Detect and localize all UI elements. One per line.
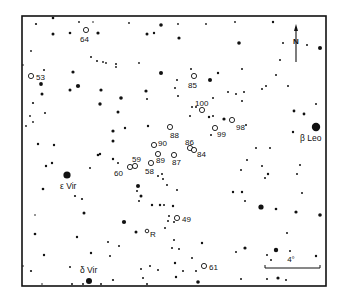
scale-bar-line	[265, 265, 320, 268]
variable-star-label: 99	[217, 130, 226, 139]
variable-star-marker	[199, 107, 204, 112]
field-star	[115, 66, 117, 68]
variable-star-label: 86	[185, 138, 194, 147]
field-star	[222, 117, 225, 120]
field-star	[227, 91, 229, 93]
field-star	[25, 125, 27, 127]
field-star	[90, 252, 92, 254]
field-star	[37, 143, 39, 145]
field-star	[69, 266, 71, 268]
variable-star-marker	[191, 147, 196, 152]
field-star	[44, 112, 46, 114]
field-star	[115, 63, 117, 65]
variable-star-label: 84	[197, 150, 206, 159]
variable-star-label: 85	[188, 81, 197, 90]
field-star	[274, 248, 278, 252]
field-star	[177, 23, 179, 25]
field-star	[157, 269, 159, 271]
field-star	[162, 178, 164, 180]
field-star	[191, 257, 193, 259]
variable-star-label: 89	[156, 156, 165, 165]
field-star	[52, 17, 55, 20]
field-star	[275, 74, 277, 76]
field-star	[30, 50, 32, 52]
star-chart: β Leoε Virδ Vir 645385100989988868490898…	[0, 0, 345, 306]
field-star	[189, 115, 191, 117]
named-star-label: ε Vir	[60, 181, 77, 191]
field-star	[39, 82, 43, 86]
variable-star-label: 59	[132, 155, 141, 164]
field-star	[261, 165, 263, 167]
field-star	[266, 278, 268, 280]
variable-star-label: 87	[172, 158, 181, 167]
field-star	[235, 93, 237, 95]
north-label: N	[293, 37, 299, 46]
field-star	[96, 31, 99, 34]
variable-star-marker	[83, 27, 88, 32]
variable-star-label: 49	[182, 215, 191, 224]
variable-star-label: 88	[170, 131, 179, 140]
field-star	[144, 89, 147, 92]
field-star	[52, 33, 55, 36]
field-star	[109, 255, 111, 257]
field-star	[69, 89, 72, 92]
field-star	[29, 115, 31, 117]
field-star	[286, 232, 288, 234]
field-star	[176, 189, 178, 191]
field-star	[182, 270, 184, 272]
field-star	[34, 233, 37, 236]
named-star-label: δ Vir	[80, 265, 97, 275]
field-star	[237, 41, 241, 45]
field-star	[99, 88, 102, 91]
field-star	[149, 265, 151, 267]
field-star	[315, 255, 317, 257]
scale-bar: 4°	[265, 255, 320, 268]
variable-star-marker	[201, 263, 206, 268]
variable-star-label: 60	[114, 169, 123, 178]
variable-star-marker	[191, 73, 196, 78]
field-star	[71, 283, 73, 285]
field-star	[159, 71, 163, 75]
named-star-dot	[63, 171, 70, 178]
field-star	[159, 204, 161, 206]
field-star	[235, 251, 237, 253]
field-star	[234, 21, 236, 23]
field-star	[178, 248, 180, 250]
variable-star-marker	[148, 160, 153, 165]
field-star	[83, 212, 86, 215]
field-star	[293, 110, 296, 113]
variable-star-label: 61	[209, 263, 218, 272]
field-star	[195, 270, 197, 272]
field-star	[76, 84, 80, 88]
field-star	[34, 214, 36, 216]
field-star	[190, 68, 192, 70]
field-star	[74, 195, 76, 197]
variable-star-marker	[28, 73, 33, 78]
field-star	[285, 279, 287, 281]
field-star	[41, 93, 44, 96]
field-star	[153, 32, 155, 34]
field-star	[318, 46, 322, 50]
field-star	[112, 279, 114, 281]
field-star	[142, 277, 144, 279]
field-star	[146, 283, 148, 285]
field-star	[246, 159, 248, 161]
variable-star-label: 64	[80, 35, 89, 44]
field-star	[99, 153, 101, 155]
field-star	[258, 204, 263, 209]
field-star	[289, 250, 291, 252]
field-star	[30, 270, 32, 272]
field-star	[69, 32, 72, 35]
field-star	[136, 184, 140, 188]
variable-star-label: 90	[158, 139, 167, 148]
field-star	[240, 169, 242, 171]
field-star	[22, 64, 24, 66]
field-star	[296, 173, 298, 175]
field-star	[301, 192, 303, 194]
named-star-dot	[86, 278, 92, 284]
field-star	[92, 21, 94, 23]
field-star	[166, 184, 168, 186]
field-star	[208, 78, 212, 82]
field-star	[168, 215, 170, 217]
field-star	[164, 227, 166, 229]
